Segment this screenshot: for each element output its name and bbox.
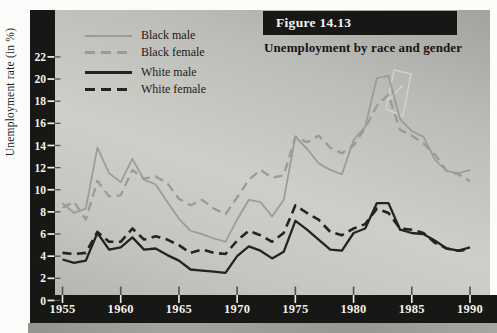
legend-item-black-female: Black female xyxy=(85,44,206,61)
legend-label: White male xyxy=(141,65,197,80)
figure-label: Figure 14.13 xyxy=(276,15,351,30)
figure-14-13: Unemployment rate (in %) 024681012141618… xyxy=(0,0,497,333)
legend-item-white-male: White male xyxy=(85,64,206,81)
y-tick-label-16: 16 xyxy=(30,117,46,129)
legend-label: Black male xyxy=(141,28,195,43)
white-male-line-swatch xyxy=(85,71,132,74)
legend-label: Black female xyxy=(141,45,205,60)
black-female-line-swatch xyxy=(85,51,132,54)
x-tick-label-1990: 1990 xyxy=(448,302,492,316)
x-tick-label-1970: 1970 xyxy=(215,302,259,316)
y-tick-label-20: 20 xyxy=(30,73,46,85)
x-tick-label-1980: 1980 xyxy=(332,302,376,316)
legend: Black male Black female White male White… xyxy=(85,27,206,98)
y-tick-label-10: 10 xyxy=(30,184,46,196)
y-tick-label-4: 4 xyxy=(30,250,46,262)
y-tick-label-18: 18 xyxy=(30,95,46,107)
x-tick-label-1965: 1965 xyxy=(157,302,201,316)
black-male-line-swatch xyxy=(85,35,132,37)
legend-item-white-female: White female xyxy=(85,81,206,98)
x-tick-label-1955: 1955 xyxy=(41,302,85,316)
x-tick-label-1985: 1985 xyxy=(390,302,434,316)
x-tick-label-1960: 1960 xyxy=(99,302,143,316)
y-tick-label-2: 2 xyxy=(30,272,46,284)
white-female-line-swatch xyxy=(85,88,132,91)
y-tick-label-6: 6 xyxy=(30,228,46,240)
y-tick-label-12: 12 xyxy=(30,162,46,174)
y-tick-label-22: 22 xyxy=(30,51,46,63)
y-tick-label-14: 14 xyxy=(30,140,46,152)
legend-label: White female xyxy=(141,82,206,97)
y-axis-title: Unemployment rate (in %) xyxy=(4,7,18,177)
x-tick-label-1975: 1975 xyxy=(273,302,317,316)
figure-subtitle: Unemployment by race and gender xyxy=(264,40,490,56)
figure-label-box: Figure 14.13 xyxy=(263,11,457,35)
y-tick-label-8: 8 xyxy=(30,206,46,218)
scan-shadow-strip xyxy=(28,323,497,333)
legend-item-black-male: Black male xyxy=(85,27,206,44)
